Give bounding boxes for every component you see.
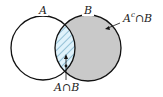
complement-intersection-label: Ac∩B [123, 12, 152, 24]
set-b-label: B [84, 5, 92, 16]
intersection-dot [65, 65, 68, 68]
complement-base: A [123, 12, 131, 25]
set-a-label: A [39, 5, 47, 16]
complement-rest: ∩B [135, 12, 152, 25]
intersection-label: A∩B [54, 82, 79, 93]
